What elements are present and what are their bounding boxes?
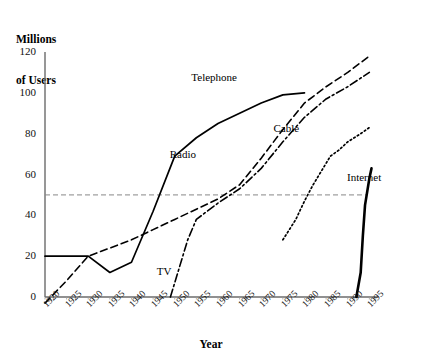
series-line-internet [356,168,371,297]
y-axis-tick-label: 20 [6,249,36,261]
series-label-internet: Internet [347,171,381,183]
series-label-tv: TV [157,265,172,277]
series-lines [45,56,372,303]
series-line-radio [45,56,369,303]
y-axis-tick-label: 80 [6,127,36,139]
y-axis-tick-label: 120 [6,45,36,57]
series-label-telephone: Telephone [191,71,237,83]
chart-container: Millions of Users 020406080100120 192019… [0,0,422,359]
x-axis-title: Year [0,338,422,350]
series-label-cable: Cable [274,122,300,134]
y-axis-tick-label: 60 [6,168,36,180]
y-axis-tick-label: 40 [6,208,36,220]
y-axis-tick-label: 0 [6,290,36,302]
y-axis-tick-label: 100 [6,86,36,98]
series-line-telephone [45,93,304,273]
series-label-radio: Radio [170,148,196,160]
series-line-cable [283,128,369,240]
series-line-tv [170,72,369,297]
